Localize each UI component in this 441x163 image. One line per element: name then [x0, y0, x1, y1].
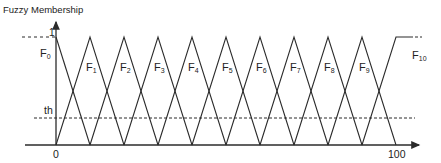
set-label-f3: F3 [154, 62, 165, 74]
membership-function-f9 [328, 37, 396, 145]
fuzzy-membership-diagram: Fuzzy Membership 1 th 0 100 F0F1F2F3F4F5… [0, 0, 441, 163]
membership-function-f5 [192, 37, 260, 145]
set-label-f8: F8 [324, 62, 335, 74]
membership-function-f10 [362, 37, 410, 145]
set-label-f6: F6 [256, 62, 267, 74]
membership-function-f4 [158, 37, 226, 145]
set-label-f5: F5 [222, 62, 233, 74]
membership-function-f2 [90, 37, 158, 145]
membership-plot [0, 0, 441, 163]
x-max-label: 100 [388, 149, 406, 160]
membership-functions [56, 37, 410, 145]
membership-function-f3 [124, 37, 192, 145]
threshold-label: th [44, 105, 53, 116]
x-min-label: 0 [53, 149, 59, 160]
membership-function-f7 [260, 37, 328, 145]
set-label-f0: F0 [40, 48, 51, 60]
membership-function-f1 [56, 37, 124, 145]
membership-function-f8 [294, 37, 362, 145]
set-label-f10: F10 [412, 50, 427, 62]
y-top-value-label: 1 [49, 28, 55, 38]
set-label-f2: F2 [120, 62, 131, 74]
membership-function-f6 [226, 37, 294, 145]
y-axis-label: Fuzzy Membership [3, 5, 83, 15]
set-label-f9: F9 [359, 62, 370, 74]
set-label-f1: F1 [86, 62, 97, 74]
set-label-f4: F4 [188, 62, 199, 74]
set-label-f7: F7 [290, 62, 301, 74]
